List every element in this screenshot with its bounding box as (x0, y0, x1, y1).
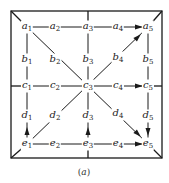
node-subscript: 1 (28, 25, 32, 33)
node-label-d2: d2 (49, 110, 62, 123)
node-subscript: 1 (28, 84, 32, 92)
arrow-icon (25, 127, 30, 135)
arrow-icon (86, 127, 91, 135)
node-subscript: 3 (89, 58, 93, 66)
node-subscript: 3 (89, 142, 93, 150)
node-subscript: 2 (56, 114, 60, 122)
node-label-d3: d3 (82, 110, 95, 123)
arrow-icon (146, 128, 151, 136)
node-subscript: 4 (119, 56, 123, 64)
figure-caption: (a) (78, 167, 90, 177)
node-label-e3: e3 (82, 138, 94, 151)
node-label-a5: a5 (142, 21, 154, 34)
node-label-e4: e4 (112, 138, 124, 151)
node-label-a2: a2 (49, 21, 61, 34)
node-label-b2: b2 (49, 54, 62, 67)
node-subscript: 1 (28, 114, 32, 122)
node-subscript: 3 (89, 25, 93, 33)
node-label-b1: b1 (21, 54, 34, 67)
node-subscript: 5 (149, 84, 153, 92)
node-label-e2: e2 (49, 138, 61, 151)
node-subscript: 2 (56, 58, 60, 66)
node-label-d5: d5 (142, 110, 155, 123)
node-label-c5: c5 (142, 80, 154, 93)
node-subscript: 5 (149, 25, 153, 33)
node-subscript: 2 (56, 25, 60, 33)
node-label-b5: b5 (142, 54, 155, 67)
node-label-a1: a1 (21, 21, 33, 34)
node-subscript: 3 (89, 84, 93, 92)
node-label-e1: e1 (21, 138, 33, 151)
node-label-b4: b4 (112, 52, 125, 65)
caption-close: ) (87, 167, 91, 177)
node-label-c2: c2 (49, 80, 61, 93)
node-subscript: 1 (28, 142, 32, 150)
node-label-d4: d4 (112, 108, 125, 121)
node-subscript: 5 (149, 142, 153, 150)
node-subscript: 2 (56, 142, 60, 150)
node-label-a4: a4 (112, 21, 124, 34)
node-subscript: 4 (119, 112, 123, 120)
node-label-e5: e5 (142, 138, 154, 151)
node-subscript: 4 (119, 84, 123, 92)
node-subscript: 5 (149, 58, 153, 66)
node-label-c3: c3 (82, 80, 94, 93)
node-subscript: 4 (119, 25, 123, 33)
node-label-c1: c1 (21, 80, 33, 93)
node-subscript: 5 (149, 114, 153, 122)
node-label-d1: d1 (21, 110, 34, 123)
node-label-c4: c4 (112, 80, 124, 93)
node-label-b3: b3 (82, 54, 95, 67)
node-subscript: 1 (28, 58, 32, 66)
node-subscript: 3 (89, 114, 93, 122)
node-subscript: 2 (56, 84, 60, 92)
node-label-a3: a3 (82, 21, 94, 34)
node-subscript: 4 (119, 142, 123, 150)
